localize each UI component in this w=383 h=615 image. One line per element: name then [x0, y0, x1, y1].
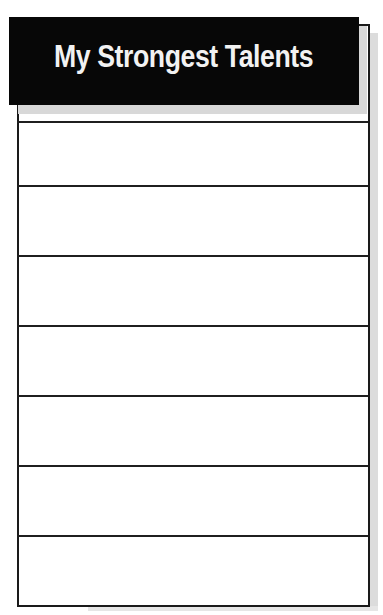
row-divider — [17, 465, 368, 467]
header-banner: My Strongest Talents — [9, 17, 359, 105]
page-title: My Strongest Talents — [54, 39, 313, 75]
talent-row-4[interactable] — [19, 327, 368, 395]
row-divider — [17, 325, 368, 327]
row-divider — [17, 255, 368, 257]
talent-row-5[interactable] — [19, 397, 368, 465]
talent-row-1[interactable] — [19, 123, 368, 185]
row-divider — [17, 535, 368, 537]
frame-shadow-right — [370, 33, 378, 611]
talent-row-6[interactable] — [19, 467, 368, 535]
talent-row-2[interactable] — [19, 187, 368, 255]
row-divider — [17, 395, 368, 397]
talent-row-7[interactable] — [19, 537, 368, 603]
talent-row-3[interactable] — [19, 257, 368, 325]
row-divider — [17, 121, 368, 123]
row-divider — [17, 185, 368, 187]
